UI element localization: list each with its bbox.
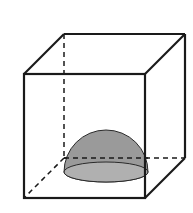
cube-hemisphere-diagram <box>0 0 193 213</box>
top-left-edge <box>24 34 64 74</box>
hidden-bottom-left-edge <box>24 158 64 198</box>
hemisphere-base <box>64 162 148 182</box>
bottom-right-edge <box>145 158 185 198</box>
top-right-edge <box>145 34 185 74</box>
hemisphere <box>64 130 148 182</box>
